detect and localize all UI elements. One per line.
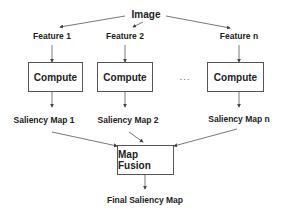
compute-box-n: Compute: [207, 62, 264, 92]
edge-image-featuren: [166, 16, 230, 28]
edge-saliencyn-fusion: [174, 129, 237, 146]
final-saliency-map-label: Final Saliency Map: [107, 195, 183, 205]
saliency-map-n-label: Saliency Map n: [208, 114, 269, 124]
saliency-map-2-label: Saliency Map 2: [98, 115, 159, 125]
compute-box-1: Compute: [28, 62, 83, 92]
compute-box-n-label: Compute: [214, 72, 257, 83]
compute-box-1-label: Compute: [34, 72, 77, 83]
feature-n-label: Feature n: [220, 31, 258, 41]
image-node: Image: [132, 9, 161, 20]
ellipsis: ...: [180, 72, 191, 82]
feature-1-label: Feature 1: [33, 31, 71, 41]
map-fusion-label: Map Fusion: [118, 149, 173, 171]
feature-2-label: Feature 2: [106, 31, 144, 41]
edge-saliency2-fusion: [129, 132, 143, 142]
compute-box-2-label: Compute: [103, 72, 146, 83]
edge-image-feature1: [60, 16, 125, 27]
edge-image-feature2: [133, 22, 143, 27]
saliency-map-1-label: Saliency Map 1: [14, 115, 75, 125]
compute-box-2: Compute: [97, 62, 153, 92]
edge-saliency1-fusion: [52, 132, 117, 146]
map-fusion-box: Map Fusion: [117, 145, 174, 175]
